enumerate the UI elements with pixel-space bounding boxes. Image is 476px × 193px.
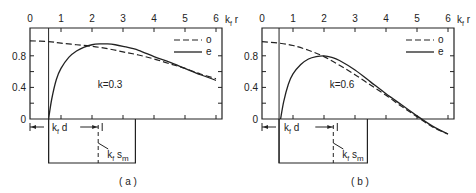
dim-label-kfd: kf d bbox=[284, 122, 299, 135]
k-annotation: k=0.6 bbox=[330, 79, 355, 90]
dim-label-kfsm: kf sm bbox=[342, 149, 364, 163]
x-tick-label: 6 bbox=[213, 13, 219, 24]
y-tick-label: 0.4 bbox=[244, 82, 258, 93]
legend-label-o: o bbox=[438, 34, 444, 45]
x-tick-label: 4 bbox=[383, 13, 389, 24]
dim-label-kfd: kf d bbox=[52, 122, 67, 135]
x-tick-label: 3 bbox=[120, 13, 126, 24]
series-line-e bbox=[281, 56, 448, 134]
panel-caption: ( b ) bbox=[351, 176, 369, 187]
k-annotation: k=0.3 bbox=[98, 79, 123, 90]
x-tick-label: 1 bbox=[58, 13, 64, 24]
x-axis-title: kf r bbox=[457, 14, 471, 27]
legend-label-o: o bbox=[206, 34, 212, 45]
x-tick-label: 0 bbox=[259, 13, 265, 24]
panel-b: 0123456kf r0.80.40kf dkf smk=0.6oe( b ) bbox=[244, 13, 471, 187]
arrowhead-right bbox=[327, 125, 332, 129]
x-tick-label: 5 bbox=[182, 13, 188, 24]
x-tick-label: 2 bbox=[89, 13, 95, 24]
series-line-e bbox=[49, 44, 216, 119]
arrowhead-right bbox=[92, 125, 97, 129]
y-tick-label: 0.8 bbox=[12, 51, 26, 62]
legend-label-e: e bbox=[206, 46, 212, 57]
x-tick-label: 4 bbox=[151, 13, 157, 24]
y-tick-label: 0.8 bbox=[244, 51, 258, 62]
y-tick-label: 0 bbox=[252, 114, 258, 125]
panel-a: 0123456kf r0.80.40kf dkf smk=0.3oe( a ) bbox=[12, 13, 239, 187]
x-tick-label: 5 bbox=[414, 13, 420, 24]
dim-label-kfsm: kf sm bbox=[107, 149, 129, 163]
x-tick-label: 6 bbox=[445, 13, 451, 24]
panel-caption: ( a ) bbox=[119, 176, 137, 187]
y-tick-label: 0.4 bbox=[12, 82, 26, 93]
x-tick-label: 0 bbox=[27, 13, 33, 24]
y-tick-label: 0 bbox=[20, 114, 26, 125]
plot-frame bbox=[262, 28, 454, 119]
series-line-o bbox=[262, 42, 448, 134]
x-axis-title: kf r bbox=[225, 14, 239, 27]
x-tick-label: 2 bbox=[321, 13, 327, 24]
legend-label-e: e bbox=[438, 46, 444, 57]
x-tick-label: 3 bbox=[352, 13, 358, 24]
figure: 0123456kf r0.80.40kf dkf smk=0.3oe( a )0… bbox=[0, 0, 476, 193]
arrowhead-left bbox=[263, 125, 268, 129]
x-tick-label: 1 bbox=[290, 13, 296, 24]
arrowhead-left bbox=[31, 125, 36, 129]
